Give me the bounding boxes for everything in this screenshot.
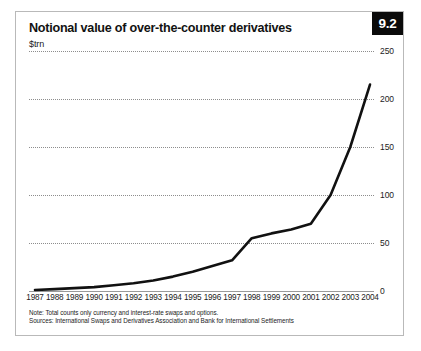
x-tick-label-1996: 1996: [204, 293, 221, 302]
x-tick-label-1994: 1994: [164, 293, 181, 302]
x-tick-label-1991: 1991: [105, 293, 122, 302]
x-tick-label-1990: 1990: [85, 293, 102, 302]
x-tick-label-2002: 2002: [322, 293, 339, 302]
y-tick-label-0: 0: [380, 286, 385, 296]
y-tick-label-250: 250: [380, 46, 394, 56]
data-series-line: [35, 85, 370, 290]
x-tick-label-2001: 2001: [302, 293, 319, 302]
y-tick-label-200: 200: [380, 94, 394, 104]
y-tick-label-50: 50: [380, 238, 389, 248]
x-tick-label-1997: 1997: [223, 293, 240, 302]
y-tick-label-150: 150: [380, 142, 394, 152]
chart-footnotes: Note: Total counts only currency and int…: [29, 309, 379, 326]
x-tick-label-2000: 2000: [282, 293, 299, 302]
x-axis-ticks: 1987198819891990199119921993199419951996…: [29, 293, 374, 306]
x-tick-label-1987: 1987: [26, 293, 43, 302]
figure-number-label: 9.2: [379, 16, 397, 31]
chart-figure: 9.2 Notional value of over-the-counter d…: [15, 11, 404, 336]
plot-area: 050100150200250: [29, 51, 374, 291]
x-tick-label-1999: 1999: [263, 293, 280, 302]
x-tick-label-1993: 1993: [145, 293, 162, 302]
x-tick-label-1992: 1992: [125, 293, 142, 302]
chart-units-label: $trn: [29, 39, 44, 49]
y-tick-label-100: 100: [380, 190, 394, 200]
footnote-note: Note: Total counts only currency and int…: [29, 309, 379, 317]
x-tick-label-2004: 2004: [361, 293, 378, 302]
figure-number-badge: 9.2: [372, 12, 403, 35]
footnote-sources: Sources: International Swaps and Derivat…: [29, 317, 379, 325]
chart-title: Notional value of over-the-counter deriv…: [29, 21, 292, 35]
data-line-chart: [29, 51, 374, 291]
x-tick-label-1995: 1995: [184, 293, 201, 302]
x-tick-label-1988: 1988: [46, 293, 63, 302]
x-tick-label-1998: 1998: [243, 293, 260, 302]
x-tick-label-2003: 2003: [342, 293, 359, 302]
x-tick-label-1989: 1989: [66, 293, 83, 302]
